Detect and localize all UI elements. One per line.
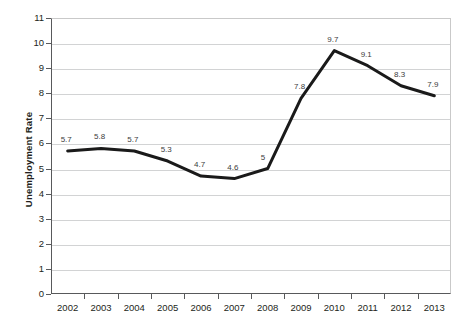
y-axis-tick-label: 6: [20, 138, 44, 148]
y-axis-tick-label: 8: [20, 88, 44, 98]
x-axis-tick: [318, 294, 319, 299]
y-axis-tick-label-wrap: 8: [18, 88, 44, 98]
x-axis-tick: [151, 294, 152, 299]
y-axis-tick-label-wrap: 9: [18, 63, 44, 73]
x-axis-tick: [384, 294, 385, 299]
point-value-label: 4.7: [194, 161, 205, 169]
gridline: [52, 170, 450, 171]
y-axis-tick-label: 1: [20, 264, 44, 274]
y-axis-tick-label-wrap: 10: [18, 38, 44, 48]
y-axis-tick-label-wrap: 0: [18, 289, 44, 299]
gridline: [52, 119, 450, 120]
y-axis-tick: [46, 68, 51, 69]
gridline: [52, 245, 450, 246]
point-value-label: 5.7: [61, 136, 72, 144]
y-axis-tick-label-wrap: 2: [18, 239, 44, 249]
y-axis-tick: [46, 18, 51, 19]
gridline: [52, 195, 450, 196]
y-axis-tick-label: 4: [20, 189, 44, 199]
x-axis-tick: [351, 294, 352, 299]
y-axis-tick-label-wrap: 1: [18, 264, 44, 274]
y-axis-tick-label-wrap: 5: [18, 164, 44, 174]
x-axis-tick: [118, 294, 119, 299]
y-axis-tick-label: 10: [20, 38, 44, 48]
y-axis-tick-label-wrap: 11: [18, 13, 44, 23]
y-axis-tick-label-wrap: 4: [18, 189, 44, 199]
gridline: [52, 44, 450, 45]
gridline: [52, 94, 450, 95]
gridline: [52, 270, 450, 271]
y-axis-tick-label-wrap: 6: [18, 138, 44, 148]
y-axis-tick-label: 7: [20, 113, 44, 123]
x-axis-tick: [284, 294, 285, 299]
point-value-label: 4.6: [227, 164, 238, 172]
y-axis-tick-label: 9: [20, 63, 44, 73]
y-axis-tick: [46, 294, 51, 295]
y-axis-tick: [46, 244, 51, 245]
point-value-label: 9.1: [361, 51, 372, 59]
y-axis-tick: [46, 118, 51, 119]
y-axis-tick-label: 2: [20, 239, 44, 249]
plot-area: [51, 18, 451, 294]
point-value-label: 7.8: [294, 83, 305, 91]
y-axis-tick: [46, 169, 51, 170]
y-axis-tick-label: 5: [20, 164, 44, 174]
y-axis-tick: [46, 219, 51, 220]
unemployment-rate-line-chart: Unemployment Rate 01234567891011 2002200…: [0, 0, 464, 332]
y-axis-tick: [46, 93, 51, 94]
point-value-label: 5.8: [94, 133, 105, 141]
x-axis-tick-label: 2013: [414, 303, 454, 313]
point-value-label: 5.7: [127, 136, 138, 144]
x-axis-tick: [84, 294, 85, 299]
y-axis-tick: [46, 43, 51, 44]
point-value-label: 7.9: [427, 81, 438, 89]
y-axis-tick-label: 3: [20, 214, 44, 224]
y-axis-tick: [46, 269, 51, 270]
y-axis-tick-label: 0: [20, 289, 44, 299]
point-value-label: 5: [261, 154, 265, 162]
gridline: [52, 220, 450, 221]
gridline: [52, 144, 450, 145]
x-axis-tick: [418, 294, 419, 299]
y-axis-tick-label-wrap: 3: [18, 214, 44, 224]
point-value-label: 9.7: [327, 36, 338, 44]
x-axis-tick: [251, 294, 252, 299]
gridline: [52, 69, 450, 70]
point-value-label: 8.3: [394, 71, 405, 79]
x-axis-tick: [184, 294, 185, 299]
y-axis-tick: [46, 143, 51, 144]
x-axis-tick: [218, 294, 219, 299]
y-axis-tick: [46, 194, 51, 195]
point-value-label: 5.3: [161, 146, 172, 154]
y-axis-tick-label-wrap: 7: [18, 113, 44, 123]
y-axis-tick-label: 11: [20, 13, 44, 23]
